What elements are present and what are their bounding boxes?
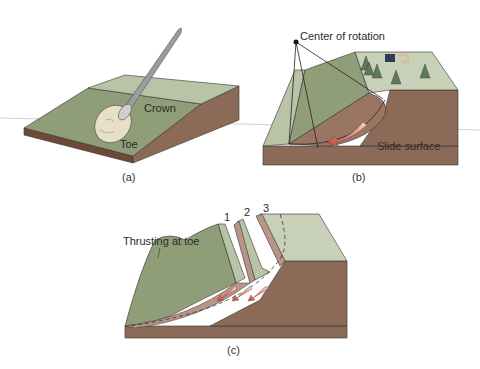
house-icon (385, 54, 395, 62)
label-center-rotation: Center of rotation (300, 30, 385, 42)
diagram-canvas: Crown Toe (a) (0, 0, 480, 369)
panel-b: Center of rotation Slide surface (b) (263, 30, 458, 183)
caption-c: (c) (227, 344, 240, 356)
label-thrusting: Thrusting at toe (123, 235, 199, 247)
caption-a: (a) (122, 171, 135, 183)
caption-b: (b) (352, 171, 365, 183)
panel-a: Crown Toe (a) (24, 28, 239, 183)
label-slide-surface: Slide surface (377, 140, 441, 152)
label-block-3: 3 (263, 202, 269, 214)
label-block-1: 1 (224, 211, 230, 223)
label-crown: Crown (144, 102, 176, 114)
panel-c: Thrusting at toe 1 2 3 (c) (123, 202, 347, 356)
label-block-2: 2 (244, 206, 250, 218)
label-toe: Toe (120, 138, 138, 150)
